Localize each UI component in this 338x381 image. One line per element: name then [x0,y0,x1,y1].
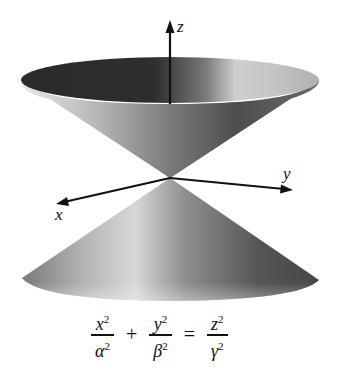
denominator-gamma: γ [211,341,218,361]
z-axis-label: z [177,18,184,35]
numerator-x: x [96,314,104,334]
exponent: 2 [218,313,224,325]
exponent: 2 [104,313,110,325]
numerator-z: z [211,314,218,334]
x-axis-label: x [55,206,63,223]
exponent: 2 [104,340,110,352]
numerator-y: y [154,314,162,334]
exponent: 2 [162,313,168,325]
equals-sign: = [184,323,195,346]
cone-figure: z y x x2 α2 + y2 β2 = z2 γ2 [0,0,338,381]
plus-sign: + [126,323,137,346]
denominator-beta: β [153,341,162,361]
exponent: 2 [218,340,224,352]
exponent: 2 [162,340,168,352]
y-axis [170,178,284,189]
cone-equation: x2 α2 + y2 β2 = z2 γ2 [88,309,231,361]
fraction-z: z2 γ2 [207,309,228,361]
y-axis-arrowhead [280,185,293,194]
y-axis-label: y [283,165,291,182]
z-axis-arrowhead [166,20,175,33]
fraction-y: y2 β2 [149,309,171,361]
fraction-x: x2 α2 [91,309,114,361]
